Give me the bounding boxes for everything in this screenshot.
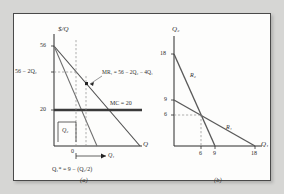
best-response-equation: Q₁* = 9 − (Q₂/2) <box>52 166 92 172</box>
figure-frame: $/Q 56 56 − 2Q₂ 20 MR₁ = 56 − 2Q₂ − 4Q₁ … <box>13 13 271 181</box>
mr-label-leader-line <box>90 76 102 84</box>
panel-b-y-axis-label: Q₂ <box>172 26 180 33</box>
optimum-point-marker <box>85 82 88 85</box>
panel-a-ytick-20: 20 <box>40 106 46 112</box>
panel-b-ytick-label-18: 18 <box>160 50 166 56</box>
panel-b-xtick-label-18: 18 <box>251 150 257 156</box>
reaction-curve-r1-label: R₁ <box>226 124 232 130</box>
panel-b-xtick-label-6: 6 <box>199 150 202 156</box>
panel-a-ytick-price: 56 − 2Q₂ <box>15 68 37 74</box>
panel-a-ytick-56: 56 <box>40 42 46 48</box>
panel-b-caption: (b) <box>214 177 222 184</box>
panel-a-origin-label: 0 <box>71 148 74 154</box>
panel-b-x-axis-label: Q₁ <box>261 141 269 148</box>
q1-subaxis-arrowhead <box>101 154 106 159</box>
panel-b-plot <box>154 14 272 182</box>
reaction-curve-r1 <box>174 100 255 146</box>
marginal-revenue-curve <box>54 46 97 146</box>
q2-bracket-label: Q₂ <box>62 127 68 133</box>
panel-a-y-axis-label: $/Q <box>58 26 69 33</box>
reaction-curve-r2 <box>174 54 215 146</box>
panel-a: $/Q 56 56 − 2Q₂ 20 MR₁ = 56 − 2Q₂ − 4Q₁ … <box>14 14 154 180</box>
panel-b-ytick-label-9: 9 <box>164 96 167 102</box>
reaction-curve-r2-label: R₂ <box>190 72 196 78</box>
panel-b: Q₂ 18 9 6 6 9 18 R₂ R₁ Q₁ (b) <box>154 14 272 180</box>
panel-a-q1-axis-label: Q₁ <box>108 152 114 158</box>
panel-b-ytick-label-6: 6 <box>164 111 167 117</box>
mr-equation-label: MR₁ = 56 − 2Q₂ − 4Q₁ <box>102 70 153 76</box>
panel-a-x-axis-label: Q <box>143 141 148 148</box>
panel-a-caption: (a) <box>80 177 88 184</box>
panel-b-xtick-label-9: 9 <box>213 150 216 156</box>
mc-label: MC = 20 <box>110 100 132 106</box>
panel-a-plot <box>14 14 154 182</box>
